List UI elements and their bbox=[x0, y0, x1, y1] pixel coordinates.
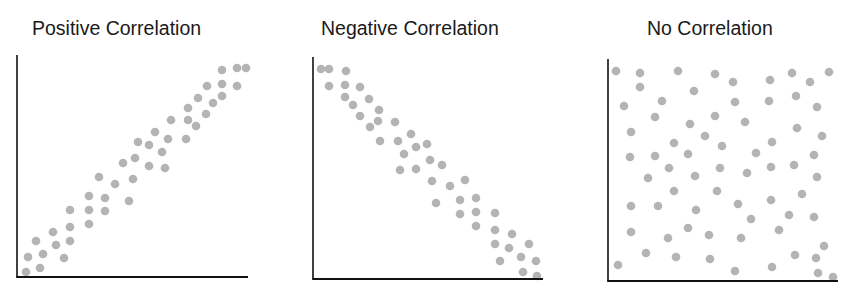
data-point bbox=[820, 242, 829, 251]
data-point bbox=[366, 123, 375, 132]
data-point bbox=[376, 137, 385, 146]
data-point bbox=[505, 244, 514, 253]
data-point bbox=[39, 250, 48, 259]
data-point bbox=[325, 65, 334, 74]
data-point bbox=[119, 159, 128, 168]
no-correlation-chart bbox=[607, 59, 838, 281]
data-point bbox=[158, 148, 167, 157]
data-point bbox=[342, 67, 351, 76]
data-point bbox=[365, 95, 374, 104]
data-point bbox=[701, 132, 710, 141]
data-point bbox=[711, 112, 720, 121]
data-point bbox=[684, 150, 693, 159]
data-point bbox=[101, 194, 110, 203]
data-point bbox=[636, 69, 645, 78]
data-point bbox=[670, 187, 679, 196]
data-point bbox=[810, 151, 819, 160]
data-point bbox=[341, 93, 350, 102]
data-point bbox=[218, 92, 227, 101]
data-point bbox=[813, 103, 822, 112]
data-point bbox=[752, 149, 761, 158]
data-point bbox=[129, 175, 138, 184]
data-point bbox=[24, 253, 33, 262]
data-point bbox=[674, 67, 683, 76]
data-point bbox=[325, 82, 334, 91]
data-point bbox=[665, 164, 674, 173]
scatter-plots bbox=[0, 0, 859, 289]
data-point bbox=[461, 176, 470, 185]
data-point bbox=[768, 263, 777, 272]
data-point bbox=[145, 162, 154, 171]
data-point bbox=[525, 240, 534, 249]
data-point bbox=[636, 83, 645, 92]
data-point bbox=[423, 140, 432, 149]
data-point bbox=[519, 268, 528, 277]
data-point bbox=[167, 116, 176, 125]
data-point bbox=[627, 128, 636, 137]
data-point bbox=[651, 152, 660, 161]
data-point bbox=[134, 138, 143, 147]
data-point bbox=[472, 222, 481, 231]
data-point bbox=[706, 255, 715, 264]
data-point bbox=[151, 128, 160, 137]
data-point bbox=[145, 141, 154, 150]
data-point bbox=[218, 66, 227, 75]
data-point bbox=[472, 208, 481, 217]
data-point bbox=[85, 192, 94, 201]
data-point bbox=[684, 224, 693, 233]
data-point bbox=[396, 166, 405, 175]
data-point bbox=[517, 253, 526, 262]
data-point bbox=[814, 269, 823, 278]
data-point bbox=[612, 67, 621, 76]
data-point bbox=[491, 226, 500, 235]
data-point bbox=[767, 163, 776, 172]
negative-correlation-chart bbox=[312, 57, 543, 280]
data-point bbox=[182, 135, 191, 144]
data-point bbox=[375, 106, 384, 115]
data-point bbox=[426, 156, 435, 165]
data-point bbox=[125, 197, 134, 206]
data-point bbox=[161, 164, 170, 173]
data-point bbox=[184, 116, 193, 125]
data-point bbox=[66, 223, 75, 232]
data-point bbox=[614, 261, 623, 270]
data-point bbox=[85, 206, 94, 215]
data-point bbox=[472, 194, 481, 203]
data-point bbox=[788, 69, 797, 78]
data-point bbox=[60, 254, 69, 263]
data-point bbox=[813, 173, 822, 182]
data-point bbox=[747, 215, 756, 224]
data-point bbox=[438, 161, 447, 170]
data-point bbox=[374, 117, 383, 126]
data-point bbox=[793, 124, 802, 133]
data-point bbox=[192, 122, 201, 131]
data-point bbox=[711, 70, 720, 79]
data-point bbox=[716, 164, 725, 173]
data-point bbox=[233, 64, 242, 73]
data-point bbox=[407, 130, 416, 139]
data-point bbox=[791, 251, 800, 260]
data-point bbox=[731, 98, 740, 107]
data-point bbox=[242, 64, 251, 73]
data-point bbox=[233, 82, 242, 91]
data-point bbox=[658, 97, 667, 106]
data-point bbox=[446, 182, 455, 191]
data-point bbox=[792, 92, 801, 101]
data-point bbox=[164, 135, 173, 144]
data-point bbox=[767, 196, 776, 205]
data-point bbox=[713, 187, 722, 196]
data-point bbox=[95, 173, 104, 182]
data-point bbox=[456, 196, 465, 205]
data-point bbox=[101, 207, 110, 216]
data-point bbox=[651, 113, 660, 122]
data-point bbox=[456, 210, 465, 219]
data-point bbox=[818, 132, 827, 141]
data-point bbox=[810, 213, 819, 222]
data-point bbox=[806, 78, 815, 87]
data-point bbox=[785, 211, 794, 220]
data-point bbox=[775, 226, 784, 235]
data-point bbox=[356, 112, 365, 121]
data-point bbox=[412, 165, 421, 174]
data-point bbox=[664, 234, 673, 243]
data-point bbox=[391, 118, 400, 127]
